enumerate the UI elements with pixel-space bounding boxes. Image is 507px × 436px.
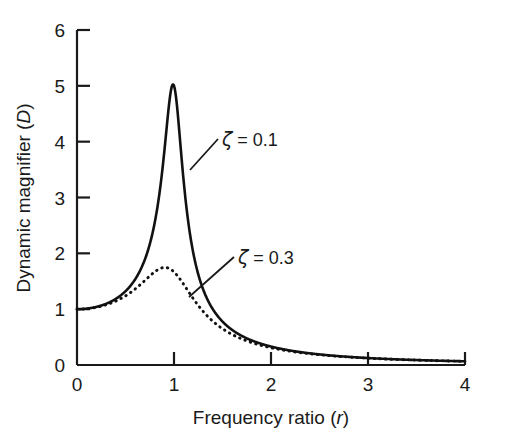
y-tick-label: 0: [54, 355, 65, 376]
y-axis-ticks: [77, 30, 90, 309]
y-tick-label: 6: [54, 20, 65, 41]
annotation-leader-line: [190, 139, 218, 170]
y-tick-label: 2: [54, 243, 65, 264]
axis-title-text: Dynamic magnifier (: [13, 123, 34, 293]
x-tick-label: 3: [363, 374, 374, 395]
y-tick-label: 1: [54, 299, 65, 320]
curve-annotations: ζ = 0.1ζ = 0.3: [189, 128, 294, 297]
axis-title-variable: D: [13, 110, 34, 124]
zeta-value: = 0.3: [248, 248, 294, 268]
x-tick-label: 0: [72, 374, 83, 395]
zeta-value: = 0.1: [232, 130, 278, 150]
y-tick-label: 5: [54, 76, 65, 97]
axis-title-paren: ): [343, 407, 349, 428]
x-axis-tick-labels: 01234: [72, 374, 471, 395]
data-curves: [77, 84, 465, 361]
chart-figure: 0123456 01234 ζ = 0.1ζ = 0.3 Frequency r…: [0, 0, 507, 436]
axes-group: [77, 30, 465, 365]
axis-title-text: Frequency ratio (: [193, 407, 337, 428]
y-tick-label: 3: [54, 188, 65, 209]
dynamic-magnifier-chart: 0123456 01234 ζ = 0.1ζ = 0.3 Frequency r…: [0, 0, 507, 436]
x-tick-label: 4: [460, 374, 471, 395]
curve-zeta-0.1: [77, 84, 465, 361]
axis-title-paren: ): [13, 104, 34, 110]
annotation-label: ζ = 0.1: [221, 128, 278, 150]
y-tick-label: 4: [54, 132, 65, 153]
x-axis-title: Frequency ratio (r): [193, 407, 349, 428]
y-axis-title: Dynamic magnifier (D): [13, 104, 34, 293]
x-tick-label: 1: [169, 374, 180, 395]
x-tick-label: 2: [266, 374, 277, 395]
annotation-label: ζ = 0.3: [237, 246, 294, 268]
y-axis-tick-labels: 0123456: [54, 20, 65, 376]
